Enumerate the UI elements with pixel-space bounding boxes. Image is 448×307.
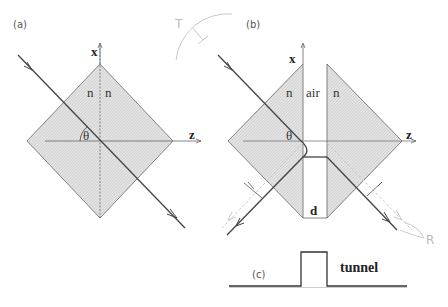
index-left-a: n <box>87 86 94 99</box>
x-axis-label-b: x <box>289 52 296 65</box>
tunnel-caption: tunnel <box>340 261 378 275</box>
prism-tunneling-diagram: (a) x z n n θ T (b) x z n air n θ d R (c… <box>0 0 448 307</box>
index-left-b: n <box>286 86 293 99</box>
gap-width-d: d <box>310 204 317 217</box>
panel-c-label: (c) <box>252 270 265 280</box>
panel-a-label: (a) <box>13 20 27 30</box>
panel-a-graphics <box>18 43 201 228</box>
z-axis-label-a: z <box>189 128 195 141</box>
angle-theta-a: θ <box>83 129 89 142</box>
transmitted-arc <box>176 14 232 60</box>
index-right-b: n <box>333 86 340 99</box>
panel-b-graphics <box>176 14 424 238</box>
index-right-a: n <box>105 86 112 99</box>
panel-b-label: (b) <box>246 20 260 30</box>
gap-medium-air: air <box>306 86 320 99</box>
diagram-graphics <box>0 0 448 307</box>
reflected-label-R: R <box>426 234 434 246</box>
x-axis-label-a: x <box>91 45 98 58</box>
transmitted-label-T: T <box>175 18 182 30</box>
angle-theta-b: θ <box>286 129 292 142</box>
z-axis-label-b: z <box>406 128 412 141</box>
